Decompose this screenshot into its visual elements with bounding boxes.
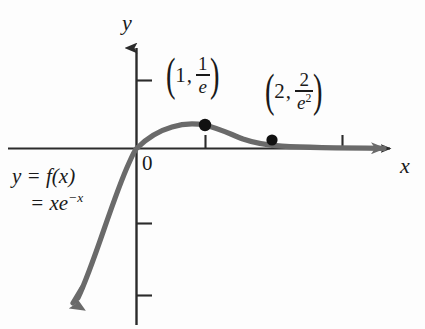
- point-maximum: [199, 119, 211, 131]
- function-equation: y = f(x) = xe−x: [12, 163, 83, 217]
- paren-open-icon: (: [265, 73, 275, 109]
- denominator-base: e: [297, 92, 305, 113]
- y-axis-label: y: [122, 12, 132, 34]
- coordinate-pair: 2 , 2 e2: [274, 70, 313, 112]
- coordinate-pair: 1 , 1 e: [175, 54, 209, 96]
- figure-container: y x 0 ( 1 , 1 e ) ( 2 , 2 e2 ): [0, 0, 425, 329]
- function-curve: [78, 124, 384, 298]
- denominator-exponent: 2: [306, 92, 312, 105]
- coordinate-comma: ,: [187, 63, 196, 88]
- coordinate-y-fraction: 2 e2: [295, 70, 313, 112]
- inflection-point-label: ( 2 , 2 e2 ): [262, 70, 326, 112]
- y-axis-ticks: [136, 81, 152, 296]
- paren-close-icon: ): [209, 57, 219, 93]
- fraction-denominator: e2: [295, 92, 313, 112]
- maximum-point-label: ( 1 , 1 e ): [163, 54, 222, 96]
- coordinate-x: 1: [175, 63, 187, 88]
- coordinate-x: 2: [274, 79, 286, 104]
- equation-line-1: y = f(x): [12, 163, 83, 190]
- fraction-numerator: 2: [297, 70, 311, 90]
- paren-close-icon: ): [313, 73, 323, 109]
- paren-open-icon: (: [166, 57, 176, 93]
- x-axis-label: x: [400, 155, 410, 177]
- equation-line-2: = xe−x: [12, 190, 83, 217]
- fraction-denominator: e: [197, 76, 209, 96]
- coordinate-comma: ,: [286, 79, 295, 104]
- coordinate-y-fraction: 1 e: [196, 54, 210, 96]
- origin-label: 0: [142, 153, 153, 174]
- point-inflection: [266, 134, 277, 145]
- equation-line-2-base: = xe: [30, 191, 68, 215]
- equation-line-2-exponent: −x: [68, 190, 83, 205]
- fraction-numerator: 1: [196, 54, 210, 74]
